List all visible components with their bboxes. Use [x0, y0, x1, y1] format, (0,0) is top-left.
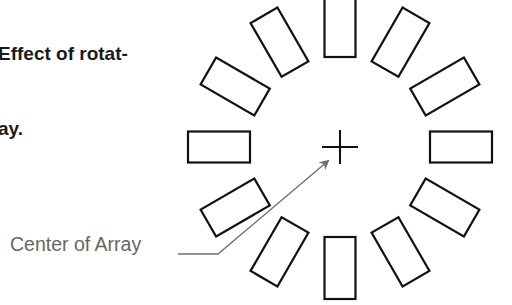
array-element-rect	[201, 179, 270, 237]
array-element-rect	[372, 8, 430, 77]
array-element-rect	[251, 217, 309, 286]
array-element-rect	[325, 0, 356, 57]
array-element-rect	[430, 132, 492, 163]
circular-array-diagram	[0, 0, 512, 305]
array-element-rect	[372, 217, 430, 286]
center-of-array-label: Center of Array	[10, 233, 141, 256]
center-crosshair-icon	[322, 130, 358, 164]
array-element-rect	[251, 8, 309, 77]
array-element-rect	[201, 58, 270, 116]
array-element-rect	[410, 179, 479, 237]
array-element-rect	[325, 237, 356, 299]
center-leader-arrow	[178, 161, 328, 254]
array-element-rect	[188, 132, 250, 163]
array-element-rect	[410, 58, 479, 116]
